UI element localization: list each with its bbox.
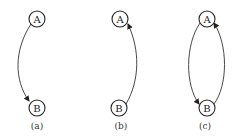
node-label: A (32, 14, 41, 25)
node-a: A (112, 11, 128, 27)
caption-b: (b) (115, 121, 128, 131)
node-b: B (111, 100, 127, 116)
caption-a: (a) (31, 121, 43, 131)
node-label: B (203, 103, 210, 114)
node-label: A (115, 14, 124, 25)
edge-b-to-a (214, 23, 225, 104)
edge-b-to-a (126, 24, 137, 104)
diagram-a: A B (a) (18, 11, 45, 131)
node-b: B (199, 100, 215, 116)
caption-c: (c) (199, 121, 211, 131)
node-b: B (29, 100, 45, 116)
diagram-b: A B (b) (111, 11, 137, 131)
node-a: A (199, 11, 215, 27)
diagram-c: A B (c) (189, 11, 225, 131)
edge-a-to-b (18, 24, 31, 101)
diagram-canvas: A B (a) A B (b) A B (c) (0, 0, 238, 138)
node-label: B (33, 103, 40, 114)
edge-a-to-b (189, 23, 200, 104)
node-label: B (115, 103, 122, 114)
node-label: A (202, 14, 211, 25)
node-a: A (29, 11, 45, 27)
